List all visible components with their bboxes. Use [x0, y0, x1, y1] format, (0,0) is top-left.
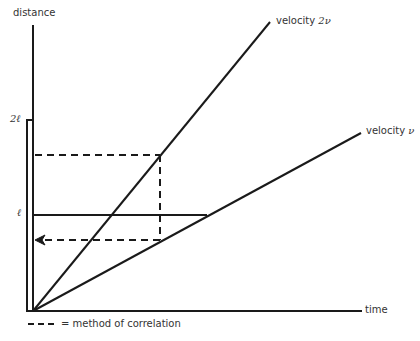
distance-axis-label: distance	[13, 8, 55, 18]
velocity-v-label: velocity ν	[366, 126, 414, 136]
velocity-2v-label-prefix: velocity	[276, 15, 318, 26]
velocity-2v-label: velocity 2ν	[276, 16, 331, 26]
correlation-arrowhead	[35, 235, 45, 245]
velocity-v-label-symbol: ν	[408, 125, 414, 136]
tick-label-l: ℓ	[17, 208, 21, 218]
distance-time-diagram	[0, 0, 420, 341]
velocity-v-line	[33, 133, 361, 311]
velocity-2v-label-symbol: 2ν	[318, 15, 330, 26]
time-axis-label: time	[365, 305, 388, 315]
tick-label-2l: 2ℓ	[10, 114, 21, 124]
velocity-2v-line	[33, 22, 270, 311]
legend-text: = method of correlation	[61, 319, 181, 329]
velocity-v-label-prefix: velocity	[366, 125, 408, 136]
